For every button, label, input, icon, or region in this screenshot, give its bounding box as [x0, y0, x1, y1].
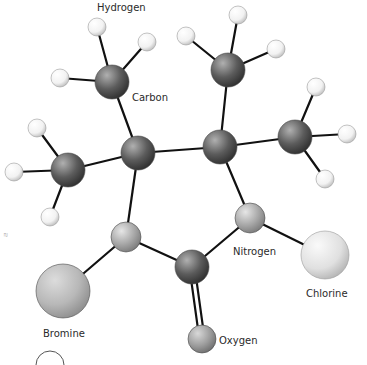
chlorine-atom — [301, 231, 349, 279]
bromine-atom — [36, 264, 90, 318]
hydrogen-atom — [5, 163, 23, 181]
label-nitrogen: Nitrogen — [233, 246, 276, 257]
hydrogen-atom — [88, 18, 106, 36]
nitrogen-atom — [111, 222, 141, 252]
carbon-atom — [95, 65, 129, 99]
label-hydrogen: Hydrogen — [97, 2, 146, 13]
label-bromine: Bromine — [43, 328, 85, 339]
hydrogen-atom — [307, 78, 325, 96]
carbon-atom — [203, 130, 237, 164]
edge-mark: ㄹ — [3, 232, 10, 238]
carbon-atom — [121, 136, 155, 170]
hydrogen-atom — [177, 27, 195, 45]
carbon-atom — [51, 153, 85, 187]
carbon-atom — [175, 250, 209, 284]
oxygen-atom — [188, 325, 216, 353]
molecule-diagram: Hydrogen Carbon Nitrogen Chlorine Bromin… — [0, 0, 367, 365]
hydrogen-atom — [338, 125, 356, 143]
hydrogen-atom — [267, 40, 285, 58]
partial-circle-shape — [36, 351, 64, 365]
nitrogen-atom — [235, 203, 265, 233]
label-chlorine: Chlorine — [306, 288, 348, 299]
hydrogen-atom — [229, 6, 247, 24]
carbon-atom — [278, 120, 312, 154]
label-oxygen: Oxygen — [219, 335, 258, 346]
hydrogen-atom — [138, 33, 156, 51]
carbon-atom — [211, 53, 245, 87]
atoms-layer — [5, 6, 356, 353]
hydrogen-atom — [41, 208, 59, 226]
hydrogen-atom — [316, 170, 334, 188]
hydrogen-atom — [28, 119, 46, 137]
hydrogen-atom — [51, 69, 69, 87]
label-carbon: Carbon — [132, 92, 168, 103]
